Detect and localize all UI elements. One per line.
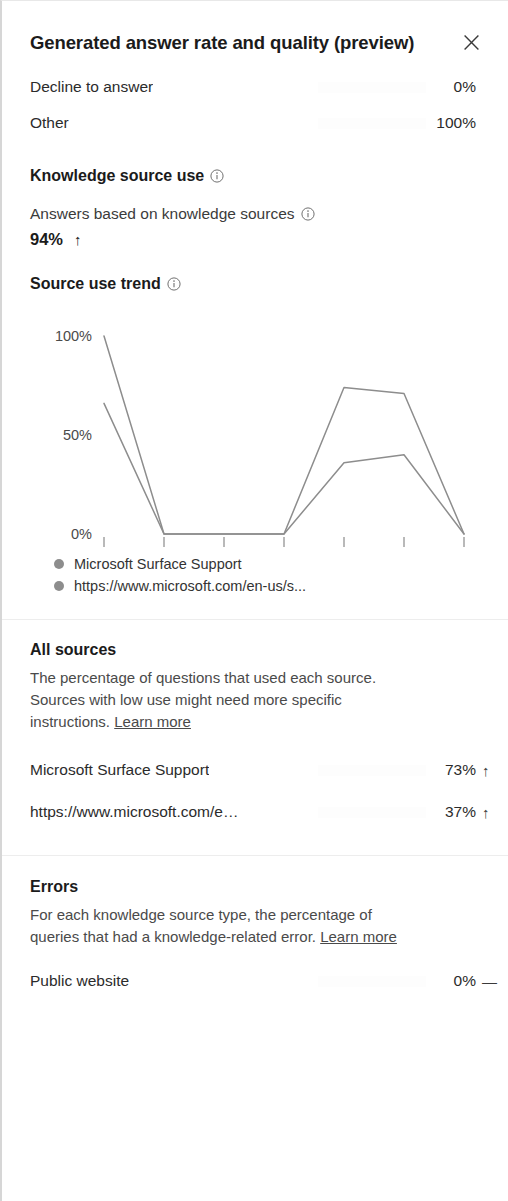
info-icon[interactable] — [167, 277, 181, 291]
chart-legend: Microsoft Surface Support https://www.mi… — [30, 553, 480, 597]
source-use-trend-heading: Source use trend — [30, 275, 480, 293]
metric-label: https://www.microsoft.com/en... — [30, 803, 242, 821]
trend-flat-icon: — — [482, 973, 497, 990]
description-line-1: For each knowledge source type, the perc… — [30, 906, 372, 923]
svg-text:50%: 50% — [63, 427, 92, 443]
metric-value: 0% — [430, 78, 476, 96]
metric-label: Microsoft Surface Support — [30, 761, 209, 779]
description-line-3: instructions. — [30, 713, 110, 730]
errors-description: For each knowledge source type, the perc… — [30, 904, 480, 948]
panel-header: Generated answer rate and quality (previ… — [30, 1, 480, 55]
trend-up-icon: ↑ — [482, 804, 490, 821]
trend-up-icon: ↑ — [482, 762, 490, 779]
all-sources-description: The percentage of questions that used ea… — [30, 667, 480, 733]
table-row: https://www.microsoft.com/en... 37% ↑ — [30, 791, 480, 833]
table-row: Decline to answer 0% — [30, 69, 480, 105]
stat-label: Answers based on knowledge sources — [30, 205, 295, 223]
section-divider — [2, 855, 508, 856]
metrics-panel: Generated answer rate and quality (previ… — [0, 0, 508, 1201]
answer-quality-list: Decline to answer 0% Other 100% — [30, 69, 480, 141]
description-line-2: queries that had a knowledge-related err… — [30, 928, 316, 945]
section-heading-label: Errors — [30, 878, 78, 896]
source-use-trend-chart: 0%50%100%Aug 10Aug 11Aug 12Aug 13Aug 14A… — [30, 307, 482, 547]
close-icon — [463, 34, 480, 51]
close-button[interactable] — [458, 29, 484, 55]
section-divider — [2, 619, 508, 620]
legend-label: https://www.microsoft.com/en-us/s... — [74, 578, 306, 594]
table-row: Public website 0% — — [30, 962, 480, 1000]
metric-bar-track — [318, 807, 426, 818]
all-sources-list: Microsoft Surface Support 73% ↑ https://… — [30, 749, 480, 833]
metric-bar-track — [318, 976, 426, 987]
legend-item[interactable]: Microsoft Surface Support — [54, 553, 480, 575]
knowledge-source-use-heading: Knowledge source use — [30, 167, 480, 185]
learn-more-link[interactable]: Learn more — [114, 713, 191, 730]
section-heading-label: Source use trend — [30, 275, 161, 293]
learn-more-link[interactable]: Learn more — [320, 928, 397, 945]
info-icon[interactable] — [301, 207, 315, 221]
page-title: Generated answer rate and quality (previ… — [30, 29, 414, 55]
stat-value: 94% — [30, 230, 63, 249]
errors-list: Public website 0% — — [30, 962, 480, 1000]
legend-color-dot — [54, 581, 64, 591]
metric-bar-track — [318, 765, 426, 776]
metric-bar-track — [318, 118, 426, 129]
metric-value: 0% — [430, 972, 476, 990]
metric-value: 73% — [430, 761, 476, 779]
info-icon[interactable] — [210, 169, 224, 183]
trend-up-icon: ↑ — [74, 231, 82, 248]
legend-item[interactable]: https://www.microsoft.com/en-us/s... — [54, 575, 480, 597]
table-row: Microsoft Surface Support 73% ↑ — [30, 749, 480, 791]
metric-bar-track — [318, 82, 426, 93]
svg-text:100%: 100% — [55, 328, 92, 344]
answers-based-on-sources-label: Answers based on knowledge sources — [30, 205, 480, 223]
answers-based-on-sources-value: 94% ↑ — [30, 230, 480, 249]
svg-text:0%: 0% — [71, 526, 92, 542]
metric-label: Decline to answer — [30, 78, 153, 96]
legend-color-dot — [54, 559, 64, 569]
legend-label: Microsoft Surface Support — [74, 556, 242, 572]
section-heading-label: All sources — [30, 641, 116, 659]
metric-value: 37% — [430, 803, 476, 821]
section-heading-label: Knowledge source use — [30, 167, 204, 185]
metric-value: 100% — [430, 114, 476, 132]
metric-label: Other — [30, 114, 69, 132]
errors-heading: Errors — [30, 878, 480, 896]
all-sources-heading: All sources — [30, 641, 480, 659]
table-row: Other 100% — [30, 105, 480, 141]
metric-label: Public website — [30, 972, 129, 990]
chart-series-line — [104, 336, 464, 534]
description-line-2: Sources with low use might need more spe… — [30, 691, 342, 708]
description-line-1: The percentage of questions that used ea… — [30, 669, 376, 686]
